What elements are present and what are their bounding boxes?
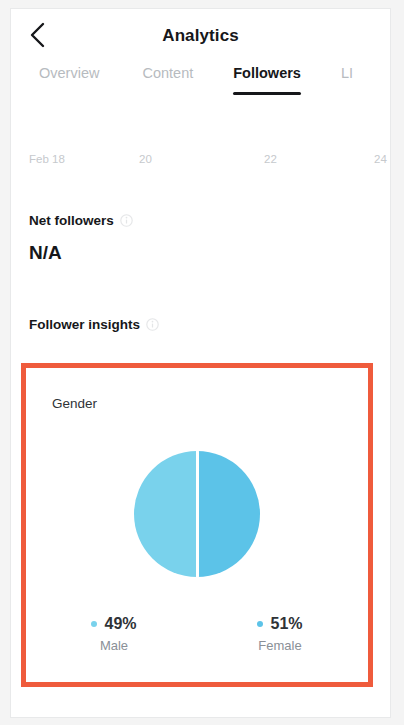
tab-followers[interactable]: Followers [233,61,301,81]
legend-percent: 49% [104,615,136,633]
legend-percent: 51% [270,615,302,633]
active-tab-underline [233,92,301,95]
gender-card-highlight: Gender 49% Male [21,363,373,687]
pie-divider [196,451,199,577]
tab-label: LI [341,65,353,81]
chart-x-axis: Feb 18 20 22 24 [11,153,390,171]
legend-dot-male [91,621,97,627]
x-axis-tick: Feb 18 [29,153,65,165]
x-axis-tick: 24 [374,153,387,165]
tab-label: Content [142,65,193,81]
legend-dot-female [257,621,263,627]
net-followers-header: Net followers [29,213,372,228]
follower-insights-label: Follower insights [29,317,140,332]
gender-card[interactable]: Gender 49% Male [30,372,364,678]
pie-slice-male [134,451,197,577]
info-circle-icon[interactable] [120,214,133,227]
info-circle-icon[interactable] [146,318,159,331]
gender-card-title: Gender [52,396,97,411]
net-followers-label: Net followers [29,213,114,228]
tab-live[interactable]: LI [341,61,353,81]
tab-label: Followers [233,65,301,81]
app-header: Analytics [11,9,390,61]
legend-item-female: 51% Female [197,615,363,653]
gender-legend: 49% Male 51% Female [31,615,363,653]
tab-overview[interactable]: Overview [39,61,99,81]
x-axis-tick: 20 [139,153,152,165]
gender-pie-chart [31,451,363,581]
pie-graphic [134,451,260,577]
tab-label: Overview [39,65,99,81]
tab-content[interactable]: Content [142,61,193,81]
legend-item-male: 49% Male [31,615,197,653]
follower-insights-section: Follower insights [11,317,390,332]
tab-bar: Overview Content Followers LI [11,61,390,105]
net-followers-section: Net followers N/A [11,213,390,264]
net-followers-value: N/A [29,242,372,264]
page-title: Analytics [11,26,390,46]
follower-insights-header: Follower insights [29,317,372,332]
legend-label: Female [197,638,363,653]
legend-label: Male [31,638,197,653]
screenshot-page: Analytics Overview Content Followers LI … [0,0,404,725]
x-axis-tick: 22 [264,153,277,165]
pie-slice-female [197,451,260,577]
followers-chart-area: Feb 18 20 22 24 [11,105,390,207]
